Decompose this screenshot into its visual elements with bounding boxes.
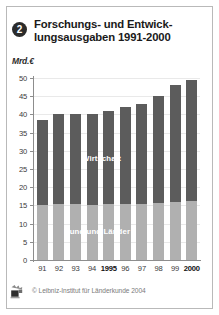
infographic-page: 2 Forschungs- und Entwick- lungsausgaben…	[0, 0, 219, 315]
bar-segment-bund-und-laender	[153, 203, 164, 260]
gridline	[34, 78, 200, 79]
y-axis-tick-label: 35	[7, 129, 27, 138]
y-axis-tick	[30, 260, 34, 261]
leibniz-ifl-logo-icon	[9, 284, 27, 301]
bar-segment-wirtschaft	[53, 114, 64, 204]
bar-segment-wirtschaft	[170, 85, 181, 201]
y-axis-tick	[30, 96, 34, 97]
chart-footer: © Leibniz-Institut für Länderkunde 2004	[0, 283, 207, 303]
chart-plot-area: 05101520253035404550 9192939419959697989…	[0, 0, 207, 303]
series-label-wirtschaft: Wirtschaft	[82, 154, 121, 163]
y-axis-tick-label: 15	[7, 201, 27, 210]
bar-segment-bund-und-laender	[186, 201, 197, 260]
bar-96	[120, 107, 131, 260]
y-axis-tick-label: 30	[7, 147, 27, 156]
bar-91	[37, 120, 48, 260]
bar-segment-wirtschaft	[153, 96, 164, 203]
y-axis-tick	[30, 205, 34, 206]
y-axis-tick-label: 5	[7, 238, 27, 247]
y-axis-tick-label: 0	[7, 256, 27, 265]
bar-92	[53, 114, 64, 260]
bar-94	[87, 114, 98, 260]
bar-segment-wirtschaft	[120, 107, 131, 204]
bar-1995	[103, 111, 114, 260]
y-axis-tick	[30, 78, 34, 79]
bar-segment-wirtschaft	[186, 80, 197, 201]
x-axis-tick-label-2000: 2000	[180, 264, 204, 273]
y-axis-tick	[30, 224, 34, 225]
y-axis-tick	[30, 151, 34, 152]
y-axis-tick-label: 10	[7, 220, 27, 229]
bar-segment-bund-und-laender	[53, 204, 64, 260]
bar-93	[70, 114, 81, 260]
y-axis-tick	[30, 187, 34, 188]
bar-segment-bund-und-laender	[136, 204, 147, 260]
bar-segment-bund-und-laender	[170, 202, 181, 260]
bar-99	[170, 85, 181, 260]
y-axis-tick	[30, 114, 34, 115]
series-label-bund-und-laender: Bund und Länder	[64, 227, 130, 236]
bar-segment-bund-und-laender	[37, 205, 48, 260]
y-axis-tick	[30, 242, 34, 243]
bar-segment-wirtschaft	[70, 114, 81, 204]
y-axis-tick-label: 50	[7, 74, 27, 83]
y-axis-tick	[30, 133, 34, 134]
bar-2000	[186, 80, 197, 260]
bar-segment-wirtschaft	[37, 120, 48, 205]
y-axis-tick-label: 20	[7, 183, 27, 192]
y-axis-tick	[30, 169, 34, 170]
copyright-text: © Leibniz-Institut für Länderkunde 2004	[32, 287, 146, 294]
y-axis-tick-label: 40	[7, 110, 27, 119]
y-axis-tick-label: 45	[7, 92, 27, 101]
bar-98	[153, 96, 164, 260]
bar-97	[136, 103, 147, 260]
bar-segment-wirtschaft	[136, 104, 147, 204]
x-axis-line	[33, 260, 201, 261]
y-axis-tick-label: 25	[7, 165, 27, 174]
